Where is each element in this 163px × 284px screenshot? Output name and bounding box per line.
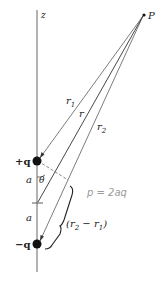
r1-line (40, 16, 143, 158)
z-axis-label: z (40, 10, 46, 20)
positive-charge (33, 157, 42, 166)
difference-label: (r2 − r1) (66, 218, 107, 232)
dipole-diagram: z P r1 r r2 θ +q −q a a (r2 − r1) p = 2a… (0, 0, 163, 284)
r2-label: r2 (97, 121, 107, 135)
separation-label-lower: a (26, 212, 32, 223)
theta-label: θ (39, 175, 45, 185)
r1-label: r1 (66, 95, 75, 109)
handwritten-note: p = 2aq (86, 187, 127, 198)
separation-label-upper: a (26, 174, 32, 185)
negative-charge-label: −q (15, 239, 30, 250)
r-label: r (79, 108, 85, 119)
point-p-label: P (147, 10, 155, 21)
r2-line (40, 16, 143, 241)
negative-charge (33, 240, 42, 249)
r-line (38, 16, 143, 202)
r2-arrowhead (40, 235, 44, 241)
positive-charge-label: +q (15, 156, 30, 167)
